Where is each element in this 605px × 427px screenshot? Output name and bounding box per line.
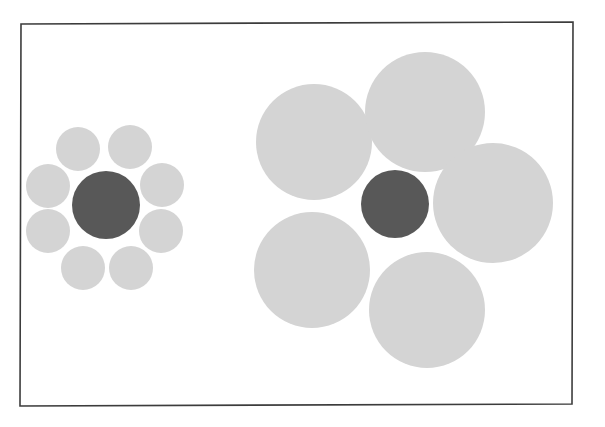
inducer-left-7: [26, 209, 70, 253]
inducer-left-4: [139, 209, 183, 253]
ebbinghaus-illusion-figure: Ebbinghaus illusion Target surrounded by…: [0, 0, 605, 427]
inducer-left-3: [140, 163, 184, 207]
target-circle-right: [361, 170, 429, 238]
inducer-left-1: [56, 127, 100, 171]
illusion-canvas: [0, 0, 605, 427]
inducer-right-4: [369, 252, 485, 368]
inducer-left-6: [61, 246, 105, 290]
inducer-left-5: [109, 246, 153, 290]
target-circle-left: [72, 171, 140, 239]
inducer-right-3: [433, 143, 553, 263]
inducer-left-8: [26, 164, 70, 208]
inducer-left-2: [108, 125, 152, 169]
inducer-right-1: [256, 84, 372, 200]
inducer-right-5: [254, 212, 370, 328]
